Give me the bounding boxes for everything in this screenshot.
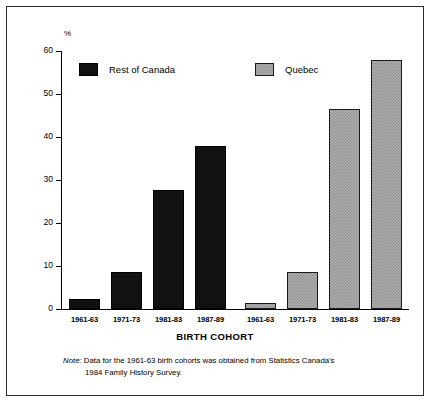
legend-item-rest-of-canada[interactable]: Rest of Canada (79, 63, 175, 76)
chart-footnote: Note: Data for the 1961-63 birth cohorts… (63, 355, 393, 379)
x-axis-line (61, 309, 409, 310)
bar-quebec-1961-63[interactable] (245, 303, 276, 309)
bar-quebec-1971-73[interactable] (287, 272, 318, 309)
legend-swatch-quebec-icon (255, 63, 274, 76)
bar-rest-of-canada-1971-73[interactable] (111, 272, 142, 309)
bar-rest-of-canada-1981-83[interactable] (153, 190, 184, 309)
legend-swatch-rest-of-canada-icon (79, 63, 98, 76)
y-axis-unit-label: % (64, 29, 71, 38)
y-tick-label-30: 30 (44, 174, 53, 184)
bar-rest-of-canada-1961-63[interactable] (69, 299, 100, 309)
bar-quebec-1981-83[interactable] (329, 109, 360, 309)
footnote-label: Note: (63, 356, 82, 365)
x-tick-label-8: 1987-89 (362, 315, 412, 324)
x-tick-label-4: 1987-89 (186, 315, 236, 324)
y-tick-10: 10 (7, 266, 61, 267)
y-tick-label-10: 10 (44, 260, 53, 270)
y-tick-label-20: 20 (44, 217, 53, 227)
legend-item-quebec[interactable]: Quebec (255, 63, 318, 76)
legend-label-rest-of-canada: Rest of Canada (109, 64, 175, 75)
y-tick-30: 30 (7, 180, 61, 181)
footnote-line-1: Data for the 1961-63 birth cohorts was o… (84, 356, 335, 365)
x-axis-title: BIRTH COHORT (7, 331, 423, 342)
plot-area (61, 45, 409, 309)
y-tick-40: 40 (7, 137, 61, 138)
legend-label-quebec: Quebec (285, 64, 318, 75)
y-tick-20: 20 (7, 223, 61, 224)
y-tick-60: 60 (7, 51, 61, 52)
y-tick-label-0: 0 (48, 303, 53, 313)
y-tick-label-40: 40 (44, 131, 53, 141)
y-tick-label-50: 50 (44, 88, 53, 98)
bar-rest-of-canada-1987-89[interactable] (195, 146, 226, 309)
y-tick-50: 50 (7, 94, 61, 95)
y-tick-label-60: 60 (44, 45, 53, 55)
bar-quebec-1987-89[interactable] (371, 60, 402, 309)
y-tick-0: 0 (7, 309, 61, 310)
y-tick-mark (56, 309, 61, 310)
chart-figure-frame: % 60 50 40 30 20 10 0 196 (6, 6, 424, 396)
footnote-line-2: 1984 Family History Survey. (85, 367, 393, 379)
